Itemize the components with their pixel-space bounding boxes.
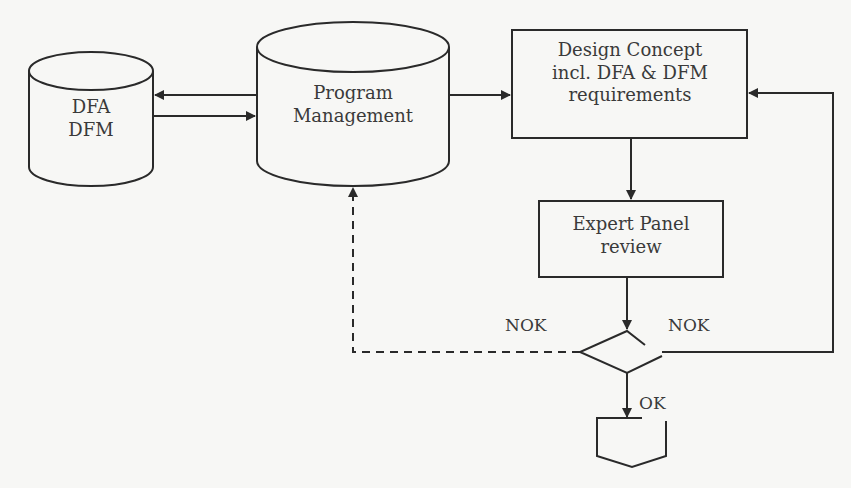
offpage-connector [597, 418, 666, 467]
dfa-dfm-label: DFA DFM [40, 96, 142, 141]
dfa-text: DFA [40, 96, 142, 119]
expert-panel-line-2: review [540, 236, 722, 259]
design-concept-line-3: requirements [514, 84, 746, 107]
program-text: Program [270, 82, 436, 105]
design-concept-line-2: incl. DFA & DFM [514, 62, 746, 85]
decision-diamond [580, 331, 662, 373]
design-concept-line-1: Design Concept [514, 39, 746, 62]
management-text: Management [270, 105, 436, 128]
nok-right-label: NOK [668, 315, 710, 336]
ok-label: OK [639, 393, 666, 414]
design-concept-label: Design Concept incl. DFA & DFM requireme… [514, 39, 746, 107]
nok-left-label: NOK [505, 315, 547, 336]
dfm-text: DFM [40, 119, 142, 142]
program-management-label: Program Management [270, 82, 436, 127]
expert-panel-label: Expert Panel review [540, 213, 722, 258]
expert-panel-line-1: Expert Panel [540, 213, 722, 236]
